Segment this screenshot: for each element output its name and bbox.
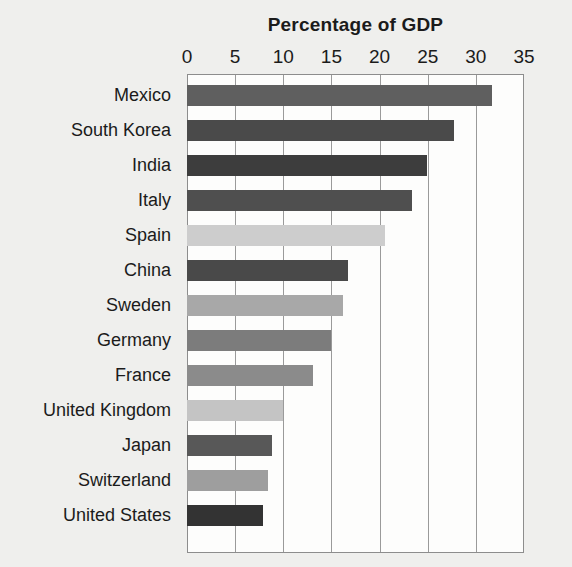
x-tick-label: 10 xyxy=(263,46,303,68)
bar-row xyxy=(187,393,524,428)
bar-china xyxy=(187,260,348,281)
bar-italy xyxy=(187,190,412,211)
x-tick-label: 0 xyxy=(167,46,207,68)
bar-row xyxy=(187,78,524,113)
y-axis-label-spain: Spain xyxy=(0,218,180,253)
bar-row xyxy=(187,428,524,463)
bar-germany xyxy=(187,330,331,351)
bar-row xyxy=(187,358,524,393)
x-tick-label: 30 xyxy=(456,46,496,68)
x-tick-label: 15 xyxy=(311,46,351,68)
chart-title: Percentage of GDP xyxy=(187,14,524,36)
bar-united-states xyxy=(187,505,263,526)
y-axis-label-india: India xyxy=(0,148,180,183)
bar-chart: Percentage of GDP 05101520253035 MexicoS… xyxy=(0,0,572,567)
bar-sweden xyxy=(187,295,343,316)
x-tick-label: 20 xyxy=(360,46,400,68)
bars-layer xyxy=(187,74,524,553)
x-tick-label: 35 xyxy=(504,46,544,68)
bar-south-korea xyxy=(187,120,454,141)
y-axis-label-sweden: Sweden xyxy=(0,288,180,323)
y-axis-label-united-states: United States xyxy=(0,498,180,533)
y-axis-label-south-korea: South Korea xyxy=(0,113,180,148)
y-axis-label-mexico: Mexico xyxy=(0,78,180,113)
bar-mexico xyxy=(187,85,492,106)
bar-row xyxy=(187,463,524,498)
bar-united-kingdom xyxy=(187,400,283,421)
y-axis-label-japan: Japan xyxy=(0,428,180,463)
bar-switzerland xyxy=(187,470,268,491)
x-tick-label: 25 xyxy=(408,46,448,68)
bar-spain xyxy=(187,225,385,246)
bar-row xyxy=(187,148,524,183)
x-tick-label: 5 xyxy=(215,46,255,68)
y-axis-label-france: France xyxy=(0,358,180,393)
x-axis-tick-labels: 05101520253035 xyxy=(0,46,572,72)
bar-row xyxy=(187,218,524,253)
y-axis-category-labels: MexicoSouth KoreaIndiaItalySpainChinaSwe… xyxy=(0,74,180,553)
y-axis-label-united-kingdom: United Kingdom xyxy=(0,393,180,428)
y-axis-label-switzerland: Switzerland xyxy=(0,463,180,498)
bar-india xyxy=(187,155,427,176)
bar-row xyxy=(187,253,524,288)
y-axis-label-italy: Italy xyxy=(0,183,180,218)
bar-row xyxy=(187,323,524,358)
bar-row xyxy=(187,183,524,218)
bar-row xyxy=(187,288,524,323)
y-axis-label-china: China xyxy=(0,253,180,288)
bar-row xyxy=(187,498,524,533)
y-axis-label-germany: Germany xyxy=(0,323,180,358)
bar-japan xyxy=(187,435,272,456)
bar-row xyxy=(187,113,524,148)
bar-france xyxy=(187,365,313,386)
